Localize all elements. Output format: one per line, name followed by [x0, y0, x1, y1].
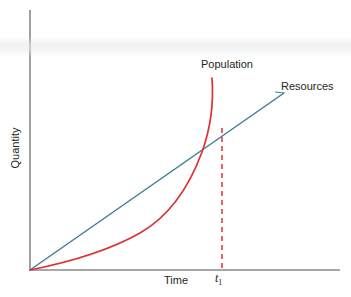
chart-figure: Population Resources Time Quantity t1: [0, 0, 351, 297]
x-axis-label: Time: [164, 274, 188, 286]
tick-t-subscript: 1: [218, 278, 222, 287]
x-axis-tick-label-t1: t1: [215, 272, 222, 289]
y-axis-label: Quantity: [9, 120, 21, 176]
series-label-population: Population: [201, 58, 253, 70]
chart-plot-area: [0, 0, 351, 297]
population-curve: [30, 78, 213, 270]
resources-line: [30, 93, 284, 270]
series-label-resources: Resources: [281, 80, 334, 92]
resources-leader-line: [275, 92, 284, 93]
